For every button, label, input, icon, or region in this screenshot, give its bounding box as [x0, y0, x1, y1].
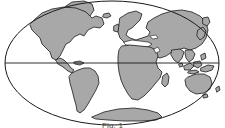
world-map-svg: [0, 0, 225, 128]
land-new-zealand: [216, 86, 220, 92]
land-kamchatka: [203, 17, 210, 26]
land-sri-lanka: [179, 63, 183, 67]
figure-caption: Fig. 1: [0, 121, 225, 128]
world-map-figure: Fig. 1: [0, 0, 225, 128]
